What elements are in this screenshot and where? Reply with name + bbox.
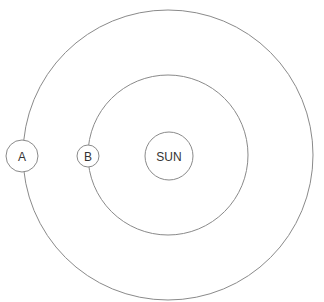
planet-a: A bbox=[6, 140, 38, 172]
planet-b: B bbox=[77, 145, 99, 167]
planet-b-label: B bbox=[84, 150, 92, 164]
sun-body: SUN bbox=[145, 132, 193, 180]
planet-a-label: A bbox=[18, 150, 26, 164]
sun-label: SUN bbox=[156, 150, 181, 164]
orbit-diagram: SUN A B bbox=[0, 0, 324, 302]
